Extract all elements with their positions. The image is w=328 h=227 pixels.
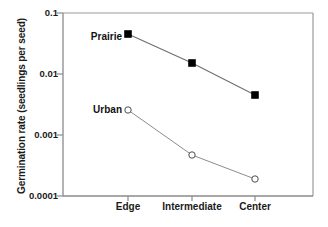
data-point-urban-center	[252, 176, 258, 182]
series-annotation-urban: Urban	[93, 104, 122, 116]
series-urban-line	[128, 110, 255, 179]
data-point-prairie-edge	[124, 30, 132, 38]
x-tick-label-intermediate: Intermediate	[162, 201, 221, 213]
y-tick-label-2: 0.001	[6, 130, 58, 140]
data-point-prairie-intermediate	[188, 59, 196, 67]
data-point-urban-intermediate	[189, 152, 195, 158]
y-axis-title: Germination rate (seedlings per seed)	[15, 6, 29, 206]
series-urban	[125, 107, 258, 182]
x-tick-label-edge: Edge	[116, 201, 140, 213]
chart-figure: Germination rate (seedlings per seed) 0.…	[0, 0, 328, 227]
y-tick-label-1: 0.01	[6, 69, 58, 79]
y-tick-label-3: 0.0001	[6, 191, 58, 201]
x-tick-label-center: Center	[239, 201, 271, 213]
y-tick-label-0: 0.1	[6, 8, 58, 18]
data-point-urban-edge	[125, 107, 131, 113]
series-prairie	[124, 30, 259, 99]
data-point-prairie-center	[251, 91, 259, 99]
y-tick-marks	[57, 13, 63, 196]
series-annotation-prairie: Prairie	[91, 31, 122, 43]
